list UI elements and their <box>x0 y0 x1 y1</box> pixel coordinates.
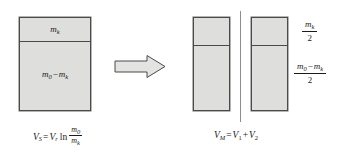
single-stage-upper-label: mk <box>20 25 90 35</box>
eq-left-ratio-numerator-subscript: 0 <box>77 128 80 135</box>
propellant-mass-denominator: 2 <box>294 74 326 85</box>
stage-separator-line <box>240 11 241 122</box>
structural-mass-numerator: mk <box>302 19 317 32</box>
propellant-mass-fraction-label: m0−mk 2 <box>294 61 326 86</box>
single-stage-divider <box>20 41 90 42</box>
eq-left-ratio-denominator: mk <box>69 136 82 145</box>
eq-right-plus: + <box>242 130 249 140</box>
transformation-arrow <box>114 54 166 79</box>
eq-right-term2-subscript: 2 <box>255 134 258 141</box>
structural-mass-numerator-subscript: k <box>312 23 315 30</box>
two-stage-box-1-divider <box>194 45 229 46</box>
single-stage-box: mk m0−mk <box>19 17 91 111</box>
two-stage-box-1 <box>193 17 230 111</box>
eq-left-mass-ratio: m0mk <box>69 126 82 146</box>
arrow-right-icon <box>114 54 166 79</box>
structural-mass-denominator: 2 <box>302 32 317 43</box>
propellant-numerator-minus: − <box>307 61 314 71</box>
propellant-mass-numerator: m0−mk <box>294 61 326 74</box>
structural-mass-fraction-label: mk 2 <box>302 19 317 44</box>
upper-label-subscript: k <box>57 28 60 35</box>
single-stage-lower-label: m0−mk <box>20 70 90 80</box>
eq-right-equals: = <box>225 130 232 140</box>
rocket-staging-diagram: mk m0−mk mk 2 m0−mk 2 VS=Vrlnm0mk VM=V1+… <box>0 0 352 160</box>
eq-left-ratio-numerator: m0 <box>69 126 82 136</box>
lower-label-minus: − <box>52 69 59 79</box>
eq-left-ln-function: ln <box>58 132 68 142</box>
eq-left-ratio-denominator-subscript: k <box>77 139 80 146</box>
single-stage-velocity-equation: VS=Vrlnm0mk <box>33 126 82 146</box>
multi-stage-velocity-equation: VM=V1+V2 <box>214 131 258 141</box>
propellant-numerator-subscript-2: k <box>320 65 323 72</box>
lower-label-subscript-2: k <box>65 73 68 80</box>
two-stage-box-2-divider <box>252 45 287 46</box>
two-stage-box-2 <box>251 17 288 111</box>
